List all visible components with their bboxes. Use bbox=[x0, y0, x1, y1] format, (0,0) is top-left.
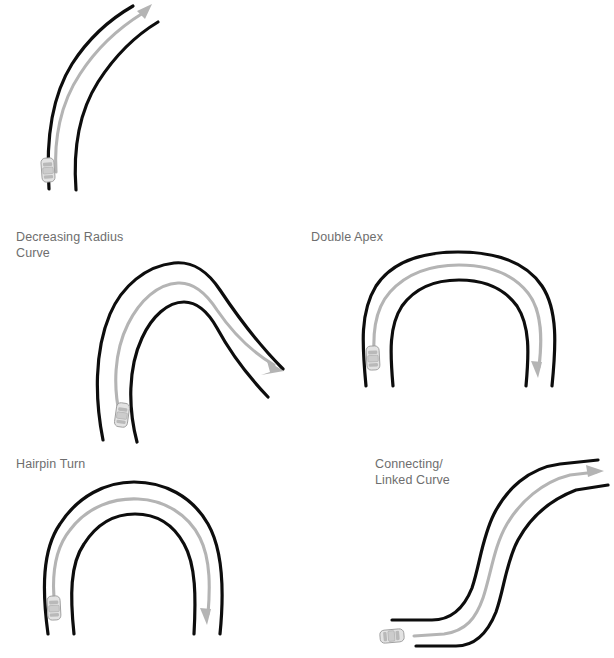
double-apex-curve-illustration bbox=[330, 248, 600, 388]
racing-line bbox=[56, 13, 143, 172]
figure-double-apex-curve bbox=[330, 248, 600, 388]
car-icon bbox=[366, 346, 380, 371]
figure-decreasing-radius-curve bbox=[90, 252, 310, 442]
car-icon bbox=[41, 158, 56, 183]
figure-connecting-linked-curve bbox=[370, 452, 614, 652]
racing-line-arrowhead-icon bbox=[586, 465, 604, 477]
road-edge-inner bbox=[72, 514, 195, 634]
figure-constant-radius-curve bbox=[0, 0, 200, 204]
constant-radius-curve-illustration bbox=[0, 0, 200, 204]
car-icon bbox=[114, 402, 130, 428]
figure-hairpin-turn bbox=[30, 472, 270, 637]
hairpin-turn-illustration bbox=[30, 472, 270, 637]
road-edge-inner bbox=[131, 302, 268, 442]
road-edge-inner bbox=[391, 280, 528, 386]
racing-line-arrowhead-icon bbox=[200, 608, 211, 625]
figure-label-double-apex: Double Apex bbox=[311, 229, 491, 245]
road-edge-outer bbox=[392, 460, 598, 620]
racing-line-arrowhead-icon bbox=[531, 361, 542, 378]
road-edge-inner bbox=[75, 22, 158, 190]
road-edge-inner bbox=[416, 485, 608, 646]
car-icon bbox=[379, 628, 404, 643]
figure-label-decreasing-radius-curve: Decreasing Radius bbox=[16, 229, 186, 245]
decreasing-radius-curve-illustration bbox=[90, 252, 310, 442]
diagram-canvas: Decreasing Radius Curve Double Apex bbox=[0, 0, 614, 658]
figure-label-hairpin-turn: Hairpin Turn bbox=[16, 456, 196, 472]
connecting-linked-curve-illustration bbox=[370, 452, 614, 652]
car-icon bbox=[47, 596, 61, 621]
